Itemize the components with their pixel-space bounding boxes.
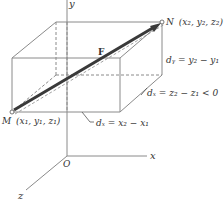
- point-m-coords: (x₁, y₁, z₁): [16, 116, 61, 126]
- dy-label: dᵧ = y₂ − y₁: [166, 55, 219, 65]
- point-n-name: N: [165, 17, 175, 27]
- point-n: [160, 20, 164, 24]
- vector-components-diagram: y x z O F N (x₂, y₂, z₂) M (x₁, y₁, z₁) …: [0, 0, 224, 204]
- box-edge: [12, 22, 56, 58]
- point-m: [10, 110, 14, 114]
- x-axis-label: x: [150, 150, 156, 161]
- vector-f-label: F: [98, 47, 105, 57]
- point-n-label: N (x₂, y₂, z₂): [165, 17, 223, 27]
- point-m-label: M (x₁, y₁, z₁): [1, 116, 61, 126]
- z-axis-label: z: [17, 190, 24, 201]
- point-n-coords: (x₂, y₂, z₂): [179, 17, 224, 27]
- point-m-name: M: [1, 116, 12, 126]
- y-axis-label: y: [68, 0, 75, 9]
- dx-label: dₓ = x₂ − x₁: [96, 118, 149, 128]
- dz-label: dₓ = z₂ − z₁ < 0: [147, 88, 218, 98]
- origin-label: O: [63, 159, 71, 169]
- z-axis: [26, 156, 67, 190]
- dx-leader: [82, 112, 94, 122]
